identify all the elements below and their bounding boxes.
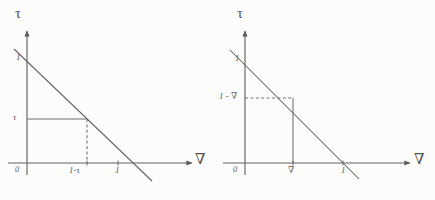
x-tick-label-nabla: ∇ bbox=[288, 166, 294, 175]
figure-container: τ ∇ 0 1 τ 1-τ 1 bbox=[0, 0, 435, 200]
y-axis-label: τ bbox=[15, 6, 21, 21]
y-tick-label-tau: τ bbox=[13, 113, 16, 122]
origin-label: 0 bbox=[233, 165, 237, 174]
y-axis-label: τ bbox=[237, 6, 243, 21]
x-tick-label-one-minus-tau: 1-τ bbox=[69, 166, 80, 175]
y-tick-label-one-minus-nabla: 1 - ∇ bbox=[219, 92, 237, 101]
diagram-panel-right: τ ∇ 0 1 1 - ∇ ∇ 1 bbox=[218, 0, 435, 200]
x-axis-label: ∇ bbox=[414, 152, 424, 167]
x-tick-label-one: 1 bbox=[115, 166, 120, 175]
panel-left-drawing bbox=[0, 0, 217, 200]
y-tick-label-one: 1 bbox=[16, 53, 21, 62]
constraint-line bbox=[230, 50, 359, 179]
diagram-panel-left: τ ∇ 0 1 τ 1-τ 1 bbox=[0, 0, 217, 200]
y-tick-label-one: 1 bbox=[235, 54, 240, 63]
constraint-line bbox=[14, 49, 152, 181]
origin-label: 0 bbox=[15, 165, 19, 174]
panel-right-drawing bbox=[218, 0, 435, 200]
x-axis-label: ∇ bbox=[195, 152, 205, 167]
x-tick-label-one: 1 bbox=[341, 166, 346, 175]
